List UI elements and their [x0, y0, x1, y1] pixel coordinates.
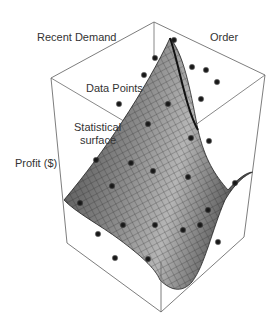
- data-point: [204, 206, 211, 213]
- data-point: [115, 100, 122, 107]
- data-point: [231, 179, 238, 186]
- data-point: [196, 221, 203, 228]
- data-point: [170, 36, 177, 43]
- surface-plot-figure: Recent Demand Order Data Points Statisti…: [0, 0, 278, 329]
- data-point: [202, 66, 209, 73]
- data-point: [214, 238, 221, 245]
- label-recent-demand: Recent Demand: [37, 31, 117, 43]
- data-point: [164, 100, 171, 107]
- data-point: [187, 134, 194, 141]
- data-point: [184, 173, 191, 180]
- data-point: [94, 230, 101, 237]
- data-point: [188, 63, 195, 70]
- data-point: [197, 95, 204, 102]
- data-point: [111, 254, 118, 261]
- label-statistical-surface-1: Statistical: [74, 121, 121, 133]
- data-point: [108, 182, 115, 189]
- label-data-points: Data Points: [86, 82, 143, 94]
- data-point: [151, 54, 158, 61]
- statistical-surface: [64, 38, 253, 289]
- data-point: [127, 159, 134, 166]
- label-order: Order: [210, 31, 238, 43]
- data-point: [205, 137, 212, 144]
- label-profit-axis: Profit ($): [15, 157, 57, 169]
- data-point: [76, 199, 83, 206]
- data-point: [151, 221, 158, 228]
- data-point: [144, 120, 151, 127]
- data-point: [140, 71, 147, 78]
- data-point: [92, 156, 99, 163]
- data-point: [213, 78, 220, 85]
- data-point: [144, 255, 151, 262]
- label-statistical-surface-2: surface: [80, 134, 116, 146]
- data-point: [119, 221, 126, 228]
- data-point: [179, 226, 186, 233]
- data-point: [149, 167, 156, 174]
